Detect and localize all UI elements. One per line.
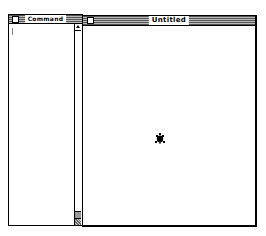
- turtle-icon: [155, 133, 165, 144]
- drawing-canvas[interactable]: [83, 26, 255, 225]
- command-titlebar[interactable]: Command: [9, 15, 82, 24]
- close-box-icon[interactable]: [87, 17, 94, 24]
- scroll-up-arrow-icon[interactable]: [75, 24, 81, 31]
- grow-box-icon[interactable]: [75, 218, 81, 225]
- scroll-down-arrow-icon[interactable]: [75, 211, 81, 218]
- text-cursor: [12, 28, 13, 35]
- window-title: Untitled: [149, 16, 189, 25]
- graphics-window[interactable]: Untitled: [82, 15, 257, 227]
- window-title: Command: [25, 15, 67, 23]
- graphics-titlebar[interactable]: Untitled: [83, 16, 255, 26]
- close-box-icon[interactable]: [12, 16, 19, 23]
- command-window[interactable]: Command: [8, 14, 83, 226]
- vertical-scrollbar[interactable]: [74, 24, 82, 225]
- command-text-area[interactable]: [9, 24, 75, 225]
